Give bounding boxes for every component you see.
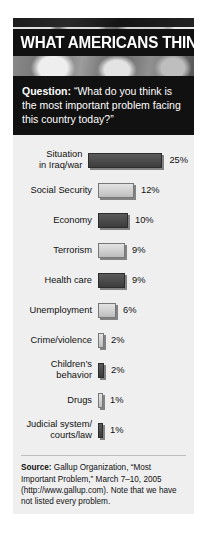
header-top-shadow-band: [13, 18, 194, 27]
source-divider: [21, 455, 186, 456]
chart-row: Judicial system/courts/law1%: [19, 415, 188, 445]
chart-bar-value: 2%: [104, 335, 124, 345]
chart-bar-wrap: 25%: [88, 145, 188, 175]
chart-row-label: Health care: [19, 275, 98, 286]
chart-row-label: Drugs: [19, 395, 98, 406]
source-note-wrap: Source: Gallup Organization, “Most Impor…: [13, 449, 194, 515]
chart-row: Children’sbehavior2%: [19, 355, 188, 385]
page-title: WHAT AMERICANS THINK: [13, 34, 194, 52]
chart-bar-value: 2%: [104, 365, 124, 375]
chart-bar-wrap: 6%: [98, 295, 188, 325]
chart-row: Health care9%: [19, 265, 188, 295]
source-label: Source:: [21, 463, 51, 472]
chart-row-label: Unemployment: [19, 305, 98, 316]
chart-row-label: Judicial system/courts/law: [19, 419, 98, 441]
chart-row: Drugs1%: [19, 385, 188, 415]
chart-bar-value: 25%: [162, 155, 188, 165]
chart-bar-wrap: 9%: [98, 235, 188, 265]
chart-bar-value: 1%: [103, 425, 123, 435]
chart-bar-value: 9%: [125, 245, 145, 255]
chart-bar-wrap: 2%: [98, 325, 188, 355]
chart-row-label: Children’sbehavior: [19, 359, 98, 381]
chart-row-label-line1: Social Security: [19, 185, 92, 196]
chart-row-label: Social Security: [19, 185, 98, 196]
chart-bar-wrap: 1%: [98, 415, 188, 445]
chart-row-label-line1: Economy: [19, 215, 92, 226]
chart-bar-wrap: 2%: [98, 355, 188, 385]
question-label: Question:: [22, 85, 71, 97]
bar-chart: Situationin Iraq/war25%Social Security12…: [13, 135, 194, 449]
chart-bar: [98, 213, 128, 228]
title-band: WHAT AMERICANS THINK: [13, 29, 194, 56]
chart-bar-value: 6%: [116, 305, 136, 315]
chart-row-label: Economy: [19, 215, 98, 226]
chart-row-label-line1: Terrorism: [19, 245, 92, 256]
chart-bar: [88, 153, 162, 168]
chart-row-label-line1: Judicial system/: [19, 419, 92, 430]
chart-row: Economy10%: [19, 205, 188, 235]
chart-bar-wrap: 1%: [98, 385, 188, 415]
chart-row-label-line1: Health care: [19, 275, 92, 286]
chart-bar-value: 10%: [128, 215, 154, 225]
chart-row-label-line1: Drugs: [19, 395, 92, 406]
chart-row-label-line1: Situation: [19, 149, 82, 160]
chart-bar-value: 12%: [134, 185, 160, 195]
chart-row-label: Crime/violence: [19, 335, 98, 346]
chart-row-label-line2: courts/law: [19, 430, 92, 441]
chart-row-label-line2: in Iraq/war: [19, 160, 82, 171]
chart-bar: [98, 303, 116, 318]
chart-row: Social Security12%: [19, 175, 188, 205]
chart-bar-value: 1%: [103, 395, 123, 405]
question-block: Question: “What do you think is the most…: [13, 76, 194, 135]
chart-bar-wrap: 12%: [98, 175, 188, 205]
chart-bar: [98, 183, 134, 198]
chart-row-label-line1: Children’s: [19, 359, 92, 370]
chart-row-label-line2: behavior: [19, 370, 92, 381]
chart-row: Unemployment6%: [19, 295, 188, 325]
source-note: Source: Gallup Organization, “Most Impor…: [21, 462, 186, 507]
chart-row: Situationin Iraq/war25%: [19, 145, 188, 175]
chart-row: Crime/violence2%: [19, 325, 188, 355]
chart-bar-value: 9%: [125, 275, 145, 285]
chart-row-label-line1: Crime/violence: [19, 335, 92, 346]
chart-row-label-line1: Unemployment: [19, 305, 92, 316]
chart-bar: [98, 243, 125, 258]
chart-row-label: Terrorism: [19, 245, 98, 256]
chart-bar-wrap: 9%: [98, 265, 188, 295]
chart-row-label: Situationin Iraq/war: [19, 149, 88, 171]
chart-bar: [98, 273, 125, 288]
chart-bar-wrap: 10%: [98, 205, 188, 235]
panel-header: WHAT AMERICANS THINK: [13, 18, 194, 76]
chart-row: Terrorism9%: [19, 235, 188, 265]
what-americans-think-panel: WHAT AMERICANS THINK Question: “What do …: [13, 18, 194, 514]
